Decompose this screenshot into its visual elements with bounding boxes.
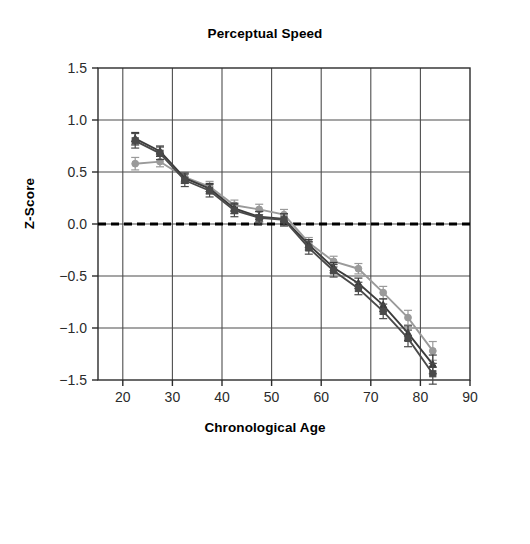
x-axis-tick-label: 50 [264, 389, 280, 405]
data-point-marker [405, 335, 411, 341]
y-axis-tick-label: 1.0 [68, 112, 88, 128]
x-axis-tick-label: 30 [165, 389, 181, 405]
figure-container: Perceptual Speed Z-Score Chronological A… [0, 0, 530, 544]
series-line [135, 139, 433, 365]
chart-legend: Letter Comparison (N = 6085) Pattern Com… [0, 452, 530, 544]
data-point-marker [182, 177, 188, 183]
x-axis-tick-label: 90 [462, 389, 478, 405]
series-line [135, 162, 433, 351]
data-point-marker [132, 160, 139, 167]
y-axis-tick-label: 1.5 [68, 60, 88, 76]
y-axis-tick-label: −1.0 [59, 320, 87, 336]
x-axis-tick-label: 20 [115, 389, 131, 405]
x-axis-tick-label: 60 [313, 389, 329, 405]
data-point-marker [132, 138, 138, 144]
data-point-marker [429, 347, 436, 354]
y-axis-tick-label: −1.5 [59, 372, 87, 388]
data-point-marker [207, 188, 213, 194]
data-point-marker [430, 371, 436, 377]
x-axis-tick-label: 70 [363, 389, 379, 405]
y-axis-tick-label: 0.5 [68, 164, 88, 180]
y-axis-tick-label: −0.5 [59, 268, 87, 284]
data-point-marker [355, 265, 362, 272]
data-point-marker [231, 207, 237, 213]
data-point-marker [380, 308, 386, 314]
data-point-marker [331, 268, 337, 274]
data-point-marker [380, 289, 387, 296]
data-point-marker [281, 217, 287, 223]
data-point-marker [157, 150, 163, 156]
x-axis-tick-label: 80 [413, 389, 429, 405]
x-axis-tick-label: 40 [214, 389, 230, 405]
data-point-marker [306, 245, 312, 251]
data-point-marker [355, 285, 361, 291]
data-point-marker [256, 215, 262, 221]
y-axis-tick-label: 0.0 [68, 216, 88, 232]
series-line [135, 141, 433, 374]
data-point-marker [405, 314, 412, 321]
